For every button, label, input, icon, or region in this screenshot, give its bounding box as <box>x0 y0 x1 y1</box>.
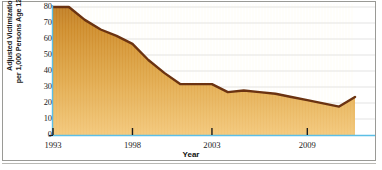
y-axis-title: Adjusted Victimization Rate per 1,000 Pe… <box>5 0 23 87</box>
x-tick-label: 1993 <box>44 140 61 150</box>
x-tick-label: 2003 <box>203 140 220 150</box>
y-tick-label: 20 <box>30 98 52 107</box>
y-axis-title-line2: per 1,000 Persons Age 12 and Over <box>14 0 23 87</box>
y-tick-label: 50 <box>30 50 52 59</box>
x-axis-title: Year <box>0 150 382 159</box>
y-tick-label: 30 <box>30 82 52 91</box>
y-tick-label: 10 <box>30 114 52 123</box>
x-tick-label: 2009 <box>299 140 316 150</box>
y-tick-label: 60 <box>30 34 52 43</box>
y-tick-label: 80 <box>30 2 52 11</box>
x-tick-label: 1998 <box>124 140 141 150</box>
y-tick-label: 70 <box>30 18 52 27</box>
y-tick-label: 40 <box>30 66 52 75</box>
y-axis-title-line1: Adjusted Victimization Rate <box>5 0 14 87</box>
